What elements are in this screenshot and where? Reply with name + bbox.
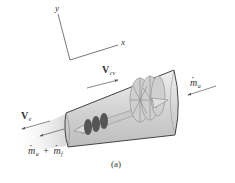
x-axis-line bbox=[70, 45, 118, 60]
m-a-inlet-label: ma bbox=[190, 78, 201, 89]
y-axis-line bbox=[58, 14, 70, 60]
figure-caption: (a) bbox=[111, 160, 121, 169]
jet-engine-diagram: y x Vcv ma Ve ma + mf (a) bbox=[0, 0, 235, 183]
v-e-label: Ve bbox=[21, 111, 31, 122]
y-axis-label: y bbox=[55, 4, 59, 13]
engine-control-volume bbox=[65, 70, 178, 147]
m-out-label: ma + mf bbox=[28, 146, 63, 157]
v-cv-label: Vcv bbox=[102, 65, 115, 76]
v-cv-arrow bbox=[87, 80, 118, 88]
coordinate-axes bbox=[58, 14, 118, 60]
x-axis-label: x bbox=[121, 38, 125, 47]
